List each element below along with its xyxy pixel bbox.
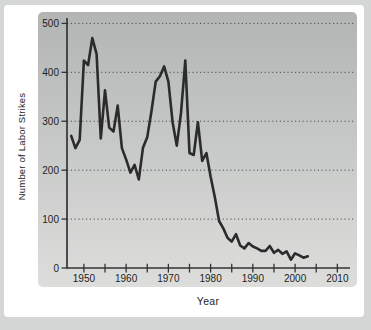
x-tick-label-1950: 1950 <box>73 273 96 284</box>
x-tick-label-1970: 1970 <box>157 273 180 284</box>
y-tick-label-200: 200 <box>42 165 59 176</box>
x-tick-label-2010: 2010 <box>326 273 349 284</box>
x-tick-label-1980: 1980 <box>199 273 222 284</box>
plot-panel <box>38 12 357 287</box>
y-tick-label-500: 500 <box>42 18 59 29</box>
x-tick-label-1990: 1990 <box>242 273 265 284</box>
page-background: 0100200300400500195019601970198019902000… <box>0 0 371 330</box>
y-tick-label-300: 300 <box>42 116 59 127</box>
y-tick-label-100: 100 <box>42 214 59 225</box>
y-tick-label-400: 400 <box>42 67 59 78</box>
x-tick-label-1960: 1960 <box>115 273 138 284</box>
x-tick-label-2000: 2000 <box>284 273 307 284</box>
y-tick-label-0: 0 <box>53 263 59 274</box>
y-axis-title-text: Number of Labor Strikes <box>17 92 28 200</box>
labor-strikes-chart: 0100200300400500195019601970198019902000… <box>0 0 371 330</box>
x-axis-title: Year <box>197 295 219 307</box>
